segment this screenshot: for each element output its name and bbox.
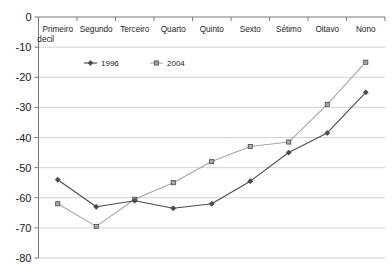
legend-item-1996[interactable]: 1996 <box>84 59 119 68</box>
data-point-marker <box>248 144 252 148</box>
x-category-label: Primeirodecil <box>37 25 73 44</box>
y-tick-label: -20 <box>16 71 32 83</box>
y-tick-label: -40 <box>16 132 32 144</box>
data-point-marker <box>56 202 60 206</box>
x-category-label: Sétimo <box>276 25 302 34</box>
legend-item-2004[interactable]: 2004 <box>150 59 185 68</box>
x-category-label: Quarto <box>161 25 186 34</box>
data-point-marker <box>287 140 291 144</box>
y-tick-label: -10 <box>16 41 32 53</box>
data-point-marker <box>154 61 158 65</box>
y-axis-ticks: 0-10-20-30-40-50-60-70-80 <box>16 11 39 264</box>
x-category-label: Oitavo <box>315 25 339 34</box>
data-point-marker <box>210 160 214 164</box>
data-point-marker <box>94 224 98 228</box>
y-tick-label: -70 <box>16 222 32 234</box>
legend-label: 1996 <box>101 59 119 68</box>
data-point-marker <box>88 60 93 65</box>
data-point-marker <box>171 206 176 211</box>
y-tick-label: -60 <box>16 192 32 204</box>
y-tick-label: -30 <box>16 101 32 113</box>
x-category-label: Segundo <box>80 25 113 34</box>
line-chart: 0-10-20-30-40-50-60-70-80PrimeirodecilSe… <box>0 0 392 275</box>
series-line <box>58 92 366 208</box>
data-point-marker <box>171 181 175 185</box>
series-1996 <box>55 90 368 211</box>
chart-container: 0-10-20-30-40-50-60-70-80PrimeirodecilSe… <box>0 0 392 275</box>
x-category-label: Nono <box>356 25 376 34</box>
x-category-label: Quinto <box>200 25 225 34</box>
data-point-marker <box>325 102 329 106</box>
data-point-marker <box>364 60 368 64</box>
x-category-label: Terceiro <box>120 25 150 34</box>
y-tick-label: -50 <box>16 162 32 174</box>
x-category-label: Sexto <box>240 25 261 34</box>
x-axis-ticks <box>39 17 386 21</box>
grid-lines <box>39 47 386 258</box>
chart-legend: 19962004 <box>84 59 185 68</box>
y-tick-label: -80 <box>16 252 32 264</box>
y-tick-label: 0 <box>25 11 31 23</box>
legend-label: 2004 <box>167 59 185 68</box>
x-axis-labels: PrimeirodecilSegundoTerceiroQuartoQuinto… <box>37 25 376 44</box>
data-point-marker <box>209 201 214 206</box>
